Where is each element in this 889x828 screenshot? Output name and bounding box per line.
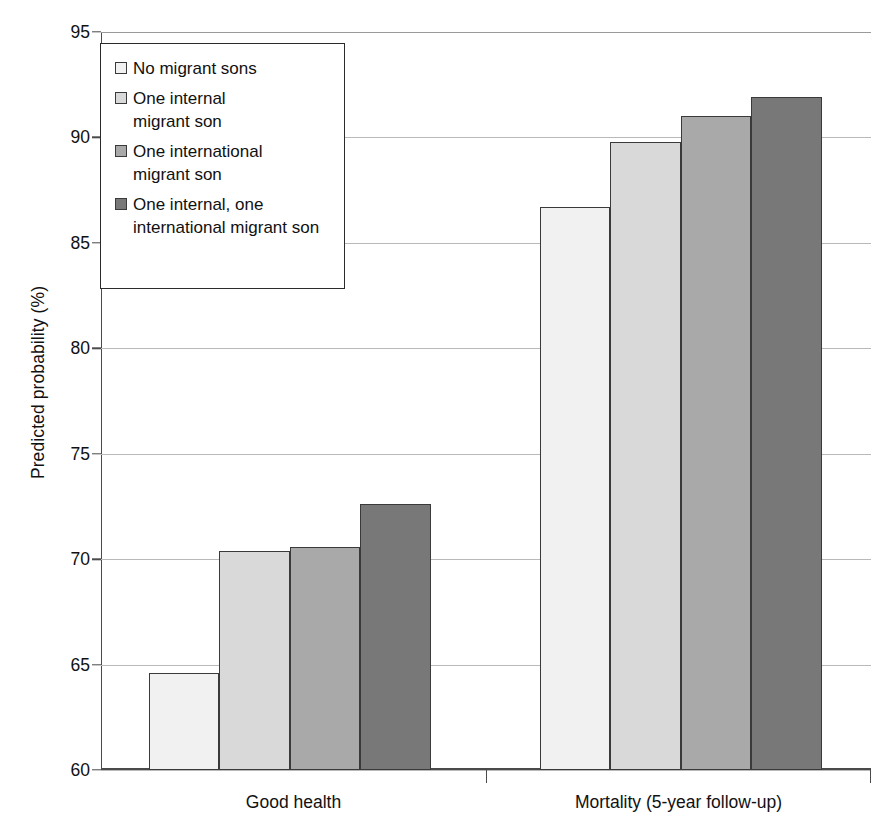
bar: [290, 547, 361, 771]
x-axis-group-separator: [486, 770, 487, 783]
x-axis-group-label: Good health: [246, 792, 341, 813]
legend: No migrant sons One internal migrant son…: [100, 43, 345, 289]
legend-swatch-no-migrant-sons: [115, 62, 127, 74]
legend-item: One international migrant son: [115, 140, 334, 186]
gridline: [101, 32, 871, 33]
bar: [219, 551, 290, 770]
legend-label: One international migrant son: [133, 140, 262, 186]
y-tick-label: 70: [71, 549, 101, 570]
y-tick-label: 85: [71, 232, 101, 253]
legend-swatch-one-international-migrant-son: [115, 145, 127, 157]
y-tick-label: 75: [71, 443, 101, 464]
bar: [540, 207, 611, 770]
legend-label: No migrant sons: [133, 57, 257, 80]
x-axis-end-tick: [870, 770, 871, 783]
y-axis-title: Predicted probability (%): [28, 33, 49, 733]
y-tick-label: 90: [71, 127, 101, 148]
x-axis-group-label: Mortality (5-year follow-up): [575, 792, 782, 813]
legend-item: One internal, one international migrant …: [115, 193, 334, 239]
bar: [681, 116, 752, 770]
legend-label: One internal, one international migrant …: [133, 193, 319, 239]
legend-label: One internal migrant son: [133, 87, 226, 133]
bar: [360, 504, 431, 770]
bar: [751, 97, 822, 770]
bar-chart: Predicted probability (%) 95908580757065…: [0, 0, 889, 828]
y-tick-label: 80: [71, 338, 101, 359]
legend-item: No migrant sons: [115, 57, 334, 80]
y-tick-label: 65: [71, 654, 101, 675]
bar: [149, 673, 220, 770]
bar: [610, 142, 681, 770]
legend-item: One internal migrant son: [115, 87, 334, 133]
legend-swatch-one-internal-migrant-son: [115, 92, 127, 104]
y-tick-label: 95: [71, 22, 101, 43]
legend-swatch-one-internal-one-international-migrant-son: [115, 198, 127, 210]
y-tick-label: 60: [71, 760, 101, 781]
